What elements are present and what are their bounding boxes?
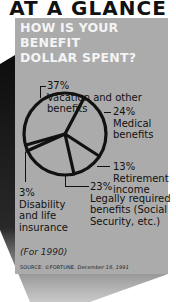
label-legal: 23% Legally required benefits (Social Se… [90,181,171,227]
label-legal-text1: Legally required [90,193,171,205]
label-disability-pct: 3% [19,187,68,199]
label-retirement-pct: 13% [113,161,169,173]
label-disability-text2: and life [19,210,68,222]
label-legal-pct: 23% [90,181,171,193]
label-vacation-text1: Vacation and other [47,92,142,104]
source-credit: SOURCE: ©FORTUNE, December 16, 1991 [20,264,129,270]
leader-vacation-h [40,86,46,87]
label-legal-text3: Security, etc.) [90,216,171,228]
leader-legal-h [65,186,89,187]
label-disability: 3% Disability and life insurance [19,187,68,233]
leader-retirement [97,166,110,167]
label-disability-text3: insurance [19,222,68,234]
leader-vacation-v [40,86,41,98]
leader-disability [25,152,26,182]
label-disability-text1: Disability [19,199,68,211]
year-note: (For 1990) [20,247,67,257]
label-legal-text2: benefits (Social [90,204,171,216]
label-medical-text2: benefits [113,129,153,141]
label-medical-text1: Medical [113,118,153,130]
source-date: December 16, 1991 [77,264,128,270]
label-medical-pct: 24% [113,106,153,118]
label-medical: 24% Medical benefits [113,106,153,141]
label-vacation-pct: 37% [47,80,142,92]
source-prefix: SOURCE: ©FORTUNE, [20,264,77,270]
